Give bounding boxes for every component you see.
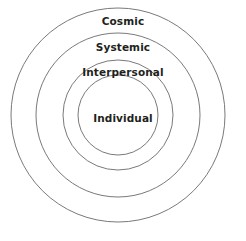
ring-label-individual: Individual [0,113,246,124]
concentric-circles-diagram: Cosmic Systemic Interpersonal Individual [0,0,246,241]
ring-label-systemic: Systemic [0,42,246,53]
ring-label-cosmic: Cosmic [0,16,246,27]
ring-label-interpersonal: Interpersonal [0,67,246,78]
